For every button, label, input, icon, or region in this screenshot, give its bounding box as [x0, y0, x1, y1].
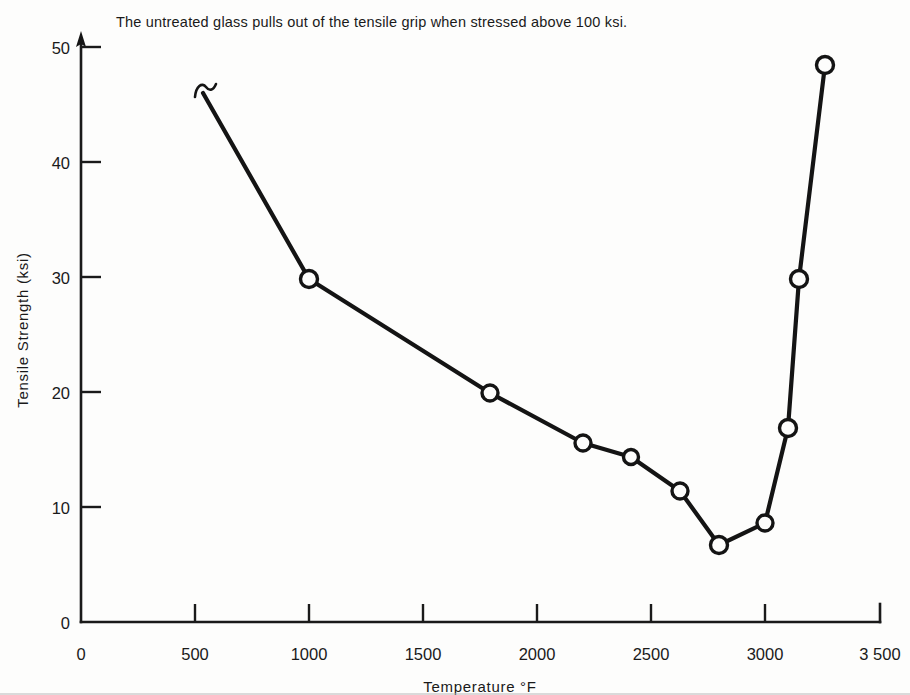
data-point-marker[interactable]	[482, 385, 498, 401]
y-tick-label-10: 10	[52, 499, 70, 517]
y-tick-label-0: 0	[61, 614, 70, 632]
x-axis-title: Temperature °F	[423, 678, 536, 695]
x-tick-label-1500: 1500	[405, 645, 442, 663]
y-tick-labels: 50 40 30 20 10 0	[52, 39, 70, 632]
data-point-marker[interactable]	[791, 271, 808, 288]
y-tick-marks	[81, 47, 101, 507]
x-tick-label-2000: 2000	[519, 645, 556, 663]
series-markers	[301, 57, 834, 554]
chart-page: 50 40 30 20 10 0 0 500 1000 1500 2000 25…	[0, 0, 910, 695]
chart-note: The untreated glass pulls out of the ten…	[116, 14, 627, 30]
data-point-marker[interactable]	[575, 435, 591, 451]
axes-group	[76, 31, 880, 622]
x-tick-label-3500: 3 500	[859, 645, 900, 663]
data-point-marker[interactable]	[301, 271, 318, 288]
x-tick-marks	[195, 604, 765, 622]
x-tick-label-3000: 3000	[747, 645, 784, 663]
tensile-strength-line-chart: 50 40 30 20 10 0 0 500 1000 1500 2000 25…	[0, 0, 910, 695]
series-line-tensile-strength	[203, 65, 825, 545]
x-tick-label-0: 0	[76, 645, 85, 663]
x-tick-labels: 0 500 1000 1500 2000 2500 3000 3 500	[76, 645, 900, 663]
data-point-marker[interactable]	[672, 483, 688, 499]
x-tick-label-500: 500	[181, 645, 209, 663]
x-tick-label-1000: 1000	[291, 645, 328, 663]
y-tick-label-50: 50	[52, 39, 70, 57]
y-tick-label-40: 40	[52, 154, 70, 172]
y-tick-label-30: 30	[52, 269, 70, 287]
x-tick-label-2500: 2500	[633, 645, 670, 663]
y-axis-title: Tensile Strength (ksi)	[14, 252, 31, 407]
y-tick-label-20: 20	[52, 384, 70, 402]
data-point-marker[interactable]	[817, 57, 834, 74]
data-point-marker[interactable]	[624, 450, 639, 465]
data-point-marker[interactable]	[780, 420, 797, 437]
data-point-marker[interactable]	[711, 537, 728, 554]
data-point-marker[interactable]	[757, 515, 773, 531]
